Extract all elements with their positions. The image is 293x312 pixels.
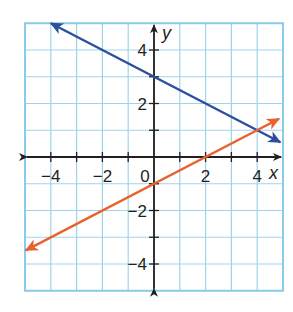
x-tick-label: −4 bbox=[41, 167, 60, 186]
data-lines bbox=[26, 23, 281, 250]
y-tick-label: 4 bbox=[138, 41, 147, 60]
axes bbox=[27, 25, 281, 289]
y-tick-label: 2 bbox=[138, 95, 147, 114]
x-axis-label: x bbox=[268, 163, 279, 183]
x-tick-label: 2 bbox=[201, 167, 210, 186]
x-tick-label: −2 bbox=[93, 167, 112, 186]
y-tick-label: −2 bbox=[128, 202, 147, 221]
x-tick-label: 0 bbox=[140, 167, 149, 186]
orange-line bbox=[26, 119, 279, 251]
y-tick-label: −4 bbox=[128, 255, 147, 274]
y-axis-label: y bbox=[160, 23, 172, 43]
line-graph: −4−202442−2−4 x y bbox=[0, 0, 293, 312]
x-tick-label: 4 bbox=[252, 167, 261, 186]
